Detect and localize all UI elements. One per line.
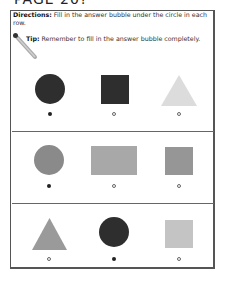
dark-circle-shape bbox=[99, 217, 129, 247]
light-rectangle-shape bbox=[91, 146, 137, 175]
answer-bubble-row2-circle[interactable] bbox=[47, 184, 51, 188]
answer-bubble-row3-square[interactable] bbox=[177, 257, 181, 261]
directions-label: Directions: bbox=[13, 11, 52, 18]
medium-square-shape bbox=[165, 147, 193, 175]
tip-label: Tip: bbox=[26, 35, 39, 42]
answer-bubble-row1-circle[interactable] bbox=[48, 112, 52, 116]
directions-text: Directions: Fill in the answer bubble un… bbox=[13, 11, 213, 28]
dark-circle-shape bbox=[35, 74, 65, 104]
medium-circle-shape bbox=[34, 145, 64, 175]
answer-bubble-row3-circle[interactable] bbox=[112, 257, 116, 261]
answer-bubble-row2-rectangle[interactable] bbox=[112, 184, 116, 188]
tip-body: Remember to fill in the answer bubble co… bbox=[39, 35, 200, 42]
light-square-shape bbox=[165, 220, 193, 248]
answer-bubble-row1-triangle[interactable] bbox=[177, 112, 181, 116]
answer-bubble-row1-square[interactable] bbox=[112, 112, 116, 116]
page-title: PAGE 20? bbox=[14, 0, 88, 7]
pale-triangle-shape bbox=[161, 75, 197, 106]
answer-bubble-row3-triangle[interactable] bbox=[47, 257, 51, 261]
row-divider bbox=[12, 203, 214, 204]
tip-text: Tip: Remember to fill in the answer bubb… bbox=[26, 35, 200, 43]
medium-triangle-shape bbox=[32, 218, 67, 250]
dark-square-shape bbox=[101, 75, 129, 104]
row-divider bbox=[12, 131, 214, 132]
answer-bubble-row2-square[interactable] bbox=[177, 184, 181, 188]
